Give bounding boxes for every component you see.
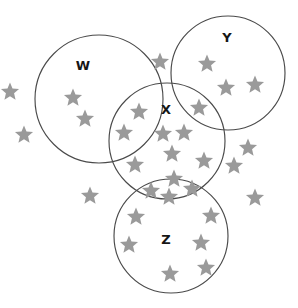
set-label-y: Y: [221, 30, 232, 45]
star-icon: [163, 145, 181, 162]
star-icon: [127, 208, 145, 225]
star-icon: [160, 188, 178, 205]
star-icon: [239, 139, 257, 156]
star-icon: [151, 53, 169, 70]
star-icon: [130, 103, 148, 120]
star-icon: [81, 187, 99, 204]
star-icon: [142, 182, 160, 199]
set-circle-x: [109, 83, 225, 199]
set-label-w: W: [76, 58, 90, 73]
star-icon: [192, 234, 210, 251]
star-icon: [246, 76, 264, 93]
star-icon: [225, 157, 243, 174]
star-icon: [165, 170, 183, 187]
star-icon: [246, 189, 264, 206]
set-label-z: Z: [161, 232, 170, 247]
star-icon: [120, 236, 138, 253]
star-icon: [183, 180, 201, 197]
star-icon: [198, 55, 216, 72]
star-icon: [115, 124, 133, 141]
star-icon: [161, 265, 179, 282]
star-icon: [190, 99, 208, 116]
venn-diagram-figure: WYXZ: [0, 0, 298, 308]
star-icon: [126, 156, 144, 173]
star-icon: [195, 152, 213, 169]
set-circle-w: [35, 35, 163, 163]
star-icon: [197, 259, 215, 276]
star-icon: [1, 83, 19, 100]
star-icon: [175, 124, 193, 141]
star-icon: [15, 126, 33, 143]
set-label-x: X: [161, 102, 171, 117]
star-icon: [202, 207, 220, 224]
venn-diagram-canvas: WYXZ: [0, 0, 298, 308]
star-icon: [217, 79, 235, 96]
stars-group: [1, 53, 264, 282]
star-icon: [76, 110, 94, 127]
star-icon: [64, 89, 82, 106]
